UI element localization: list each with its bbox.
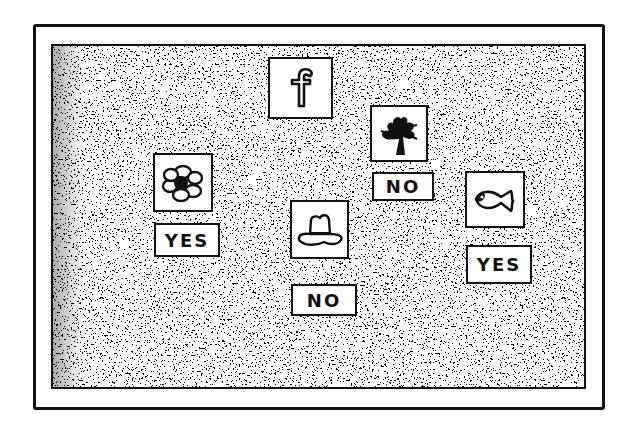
- hat-icon: [296, 212, 344, 248]
- answer-tag-flower[interactable]: YES: [154, 223, 220, 257]
- card-tree[interactable]: [370, 105, 428, 162]
- card-letter-f[interactable]: [268, 57, 333, 119]
- answer-tag-fish[interactable]: YES: [466, 245, 532, 284]
- card-hat[interactable]: [290, 200, 349, 259]
- flower-icon: [161, 164, 205, 202]
- answer-tag-tree[interactable]: NO: [372, 172, 434, 201]
- card-flower[interactable]: [153, 153, 213, 212]
- letter-f-icon: [286, 66, 316, 110]
- answer-tag-hat[interactable]: NO: [291, 284, 357, 316]
- card-fish[interactable]: [465, 171, 525, 228]
- fish-icon: [473, 187, 517, 213]
- tree-icon: [377, 111, 421, 157]
